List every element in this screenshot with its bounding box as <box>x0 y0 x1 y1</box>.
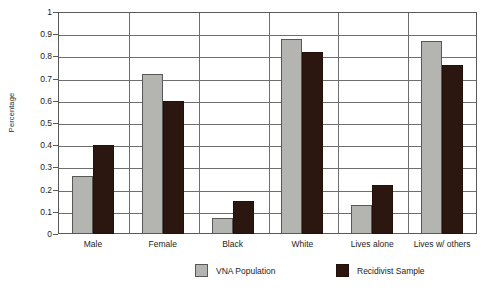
x-axis-tick-label: Lives w/ others <box>414 239 471 249</box>
bar <box>163 101 184 234</box>
y-axis-tick-label: 0.1 <box>4 207 52 217</box>
y-axis-tick-label: 0.6 <box>4 96 52 106</box>
bar <box>421 41 442 234</box>
bar-group <box>268 12 338 234</box>
bar <box>351 205 372 234</box>
y-axis-tick-label: 0.5 <box>4 118 52 128</box>
bar <box>142 74 163 234</box>
y-axis-tick-label: 0.3 <box>4 162 52 172</box>
legend-swatch-icon <box>336 264 349 277</box>
y-axis-tick-label: 0.7 <box>4 74 52 84</box>
bar <box>281 39 302 234</box>
bar <box>212 218 233 234</box>
bar <box>72 176 93 234</box>
bar-group <box>337 12 407 234</box>
y-axis-tick-label: 0.9 <box>4 29 52 39</box>
bar <box>372 185 393 234</box>
legend-label: VNA Population <box>216 266 276 276</box>
bar <box>93 145 114 234</box>
bar-chart: Percentage 10.90.80.70.60.50.40.30.20.10… <box>0 0 490 294</box>
y-axis-tick-label: 0.2 <box>4 185 52 195</box>
legend-entry[interactable]: Recidivist Sample <box>336 264 425 277</box>
y-axis-tick-label: 0.4 <box>4 140 52 150</box>
bar-group <box>128 12 198 234</box>
legend-swatch-icon <box>195 264 208 277</box>
bars-layer <box>58 12 477 234</box>
y-axis-tick-label: 0.8 <box>4 51 52 61</box>
bar-group <box>198 12 268 234</box>
chart-legend: VNA PopulationRecidivist Sample <box>58 262 477 286</box>
x-axis-tick-label: White <box>292 239 314 249</box>
bar <box>302 52 323 234</box>
bar <box>233 201 254 234</box>
legend-entry[interactable]: VNA Population <box>195 264 276 277</box>
legend-label: Recidivist Sample <box>357 266 425 276</box>
x-axis-tick-label: Lives alone <box>351 239 394 249</box>
y-axis-tick-label: 0 <box>4 229 52 239</box>
x-axis-tick-label: Female <box>149 239 177 249</box>
bar-group <box>407 12 477 234</box>
y-axis-tick-mark <box>53 234 58 235</box>
x-axis-tick-label: Black <box>222 239 243 249</box>
bar <box>442 65 463 234</box>
y-axis-tick-label: 1 <box>4 7 52 17</box>
x-axis-tick-label: Male <box>84 239 102 249</box>
bar-group <box>58 12 128 234</box>
